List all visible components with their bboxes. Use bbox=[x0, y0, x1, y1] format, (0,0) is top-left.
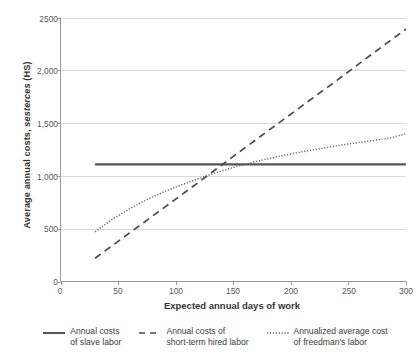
legend-label-line2: of freedman's labor bbox=[294, 337, 367, 347]
x-axis-title: Expected annual days of work bbox=[56, 300, 408, 311]
x-tick-label: 100 bbox=[156, 287, 196, 295]
legend-label-freedman-labor: Annualized average costof freedman's lab… bbox=[294, 326, 388, 348]
legend-swatch-dotted-icon bbox=[267, 327, 289, 339]
x-tick-label: 0 bbox=[40, 287, 80, 295]
axis-ticks bbox=[57, 19, 407, 286]
legend-label-hired-labor: Annual costs ofshort-term hired labor bbox=[166, 326, 248, 348]
x-tick-label: 300 bbox=[386, 287, 417, 295]
legend-item-freedman-labor: Annualized average costof freedman's lab… bbox=[267, 326, 388, 348]
x-tick-label: 50 bbox=[98, 287, 138, 295]
series-line-2 bbox=[95, 134, 406, 232]
legend-item-slave-labor: Annual costsof slave labor bbox=[43, 326, 121, 348]
legend-label-line1: Annualized average cost bbox=[294, 326, 388, 336]
legend-label-line2: of slave labor bbox=[70, 337, 121, 347]
legend-swatch-dashed-icon bbox=[139, 327, 161, 339]
series-line-1 bbox=[95, 29, 406, 258]
legend-label-line1: Annual costs of bbox=[166, 326, 225, 336]
chart-legend: Annual costsof slave labor Annual costs … bbox=[0, 326, 417, 348]
x-tick-label: 150 bbox=[213, 287, 253, 295]
gridlines bbox=[61, 19, 407, 230]
chart-figure: Average annual costs, sesterces (HS) 250… bbox=[0, 0, 417, 355]
legend-label-slave-labor: Annual costsof slave labor bbox=[70, 326, 121, 348]
x-tick-label: 200 bbox=[271, 287, 311, 295]
data-series-group bbox=[95, 29, 406, 258]
legend-label-line1: Annual costs bbox=[70, 326, 119, 336]
x-tick-label: 250 bbox=[329, 287, 369, 295]
legend-swatch-solid-icon bbox=[43, 327, 65, 339]
legend-label-line2: short-term hired labor bbox=[166, 337, 248, 347]
x-axis-tick-labels: 0 50 100 150 200 250 300 bbox=[0, 287, 417, 301]
legend-item-hired-labor: Annual costs ofshort-term hired labor bbox=[139, 326, 248, 348]
